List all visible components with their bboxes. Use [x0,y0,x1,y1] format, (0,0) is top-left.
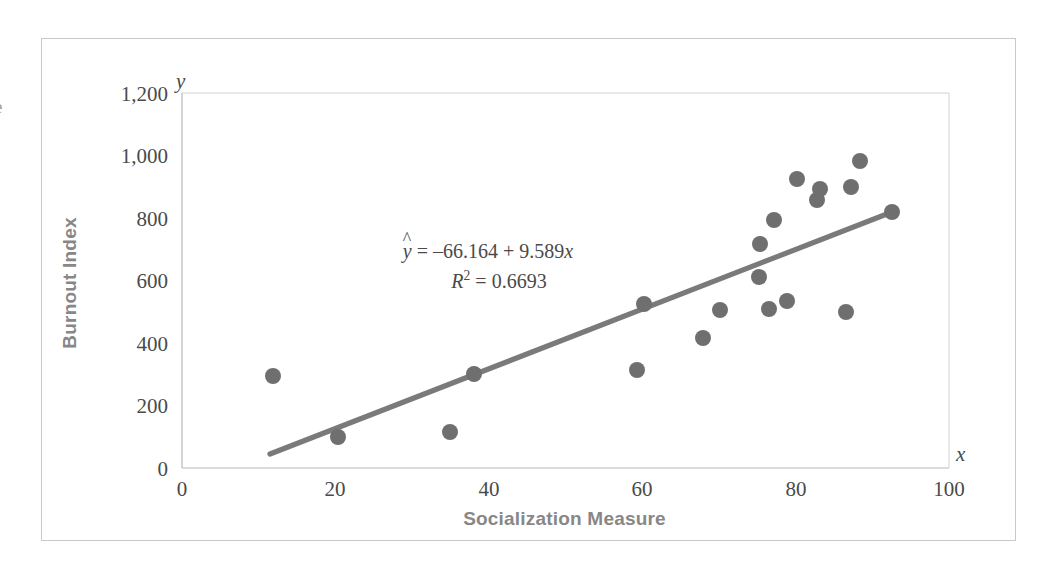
regression-equation-line: ^y = –66.164 + 9.589x [338,237,638,266]
data-point [761,301,777,317]
x-tick-label: 60 [602,477,682,502]
data-point [752,236,768,252]
data-point [766,212,782,228]
regression-annotation: ^y = –66.164 + 9.589x R2 = 0.6693 [338,237,638,296]
equation-x-variable: x [564,240,573,262]
x-tick-label: 40 [449,477,529,502]
data-point [843,179,859,195]
data-point [789,171,805,187]
data-point [852,153,868,169]
y-hat-accent: ^ [403,226,410,252]
y-tick-label: 1,000 [88,144,168,169]
x-axis-title: Socialization Measure [181,508,948,530]
r-squared-symbol: R [451,270,463,292]
data-point [636,296,652,312]
y-variable-symbol: y [176,69,185,94]
data-point [330,429,346,445]
data-point [442,424,458,440]
x-tick-label: 80 [756,477,836,502]
page-edge-glyph: e [0,96,2,118]
data-point [265,368,281,384]
y-tick-label: 1,200 [88,82,168,107]
data-point [884,204,900,220]
r-squared-line: R2 = 0.6693 [338,266,638,296]
data-point [695,330,711,346]
data-point [466,366,482,382]
y-tick-label: 200 [88,394,168,419]
data-point [779,293,795,309]
figure-frame: ^y = –66.164 + 9.589x R2 = 0.6693 y x 0 … [41,38,1016,541]
r-squared-value: = 0.6693 [470,270,546,292]
equation-body: = –66.164 + 9.589 [412,240,565,262]
y-tick-label: 400 [88,332,168,357]
data-point [812,181,828,197]
data-point [629,362,645,378]
x-tick-label: 100 [909,477,989,502]
data-point [838,304,854,320]
y-axis-title: Burnout Index [59,173,81,393]
y-tick-label: 600 [88,269,168,294]
data-point [751,269,767,285]
data-point-markers [265,153,900,445]
data-point [712,302,728,318]
y-tick-label: 800 [88,207,168,232]
x-variable-symbol: x [956,442,965,467]
x-tick-label: 20 [295,477,375,502]
x-tick-label: 0 [142,477,222,502]
